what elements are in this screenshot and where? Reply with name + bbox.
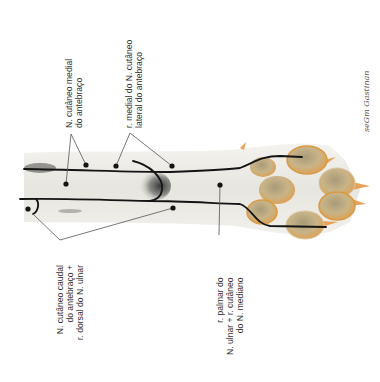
label-line: N. cutâneo caudal: [55, 265, 65, 340]
artist-signature: seGm Gastinan: [362, 71, 371, 132]
anatomical-figure: N. cutâneo medial do antebraço r. medial…: [0, 0, 380, 382]
label-line: N. ulnar + r. cutâneo: [225, 277, 235, 355]
label-line: do antebraço: [74, 59, 84, 128]
label-line: r. palmar do: [215, 277, 225, 355]
label-r-palmar-n-ulnar: r. palmar do N. ulnar + r. cutâneo do N.…: [215, 277, 246, 355]
label-line: N. cutâneo medial: [64, 59, 74, 128]
label-line: r. dorsal do N. ulnar: [75, 265, 85, 340]
label-n-cutaneo-caudal: N. cutâneo caudal do antebraço + r. dors…: [55, 265, 86, 340]
label-line: lateral do antebraço: [134, 40, 144, 128]
label-n-cutaneo-medial: N. cutâneo medial do antebraço: [64, 59, 84, 128]
label-line: r. medial do N. cutâneo: [124, 40, 134, 128]
label-line: do antebraço +: [65, 265, 75, 340]
label-line: do N. mediano: [235, 277, 245, 355]
label-r-medial-n-cutaneo-lateral: r. medial do N. cutâneo lateral do anteb…: [124, 40, 144, 128]
